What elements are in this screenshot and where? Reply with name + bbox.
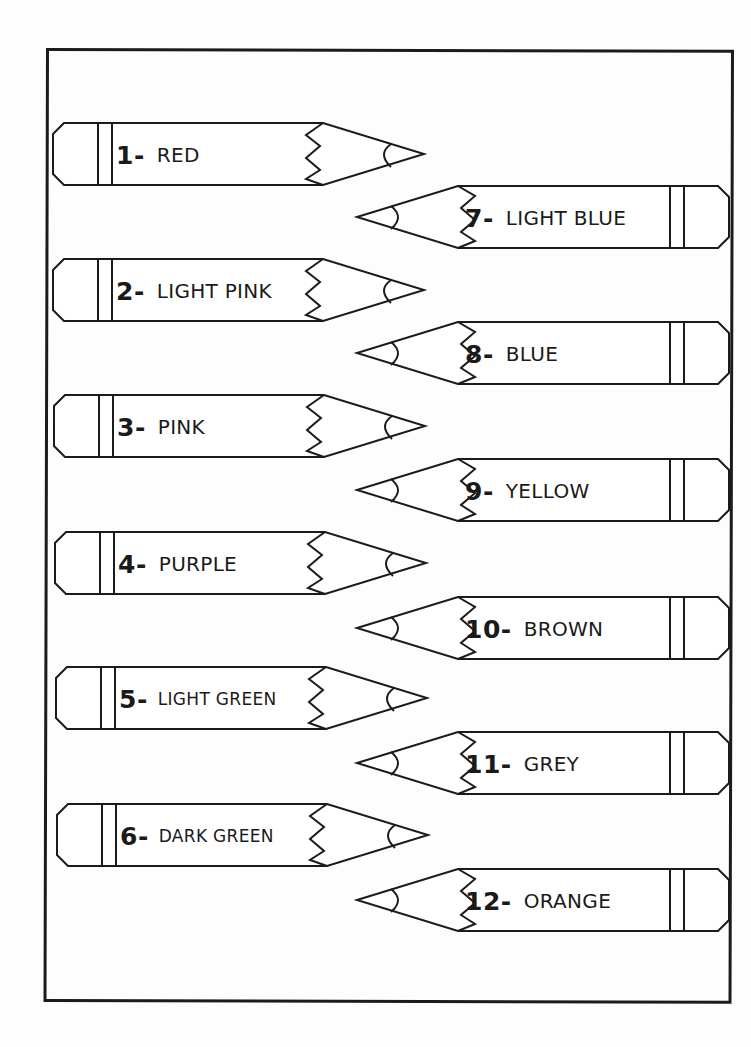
pencil-color-name: RED (157, 143, 200, 167)
pencil-color-name: LIGHT BLUE (506, 206, 626, 230)
pencil-color-name: PURPLE (159, 552, 237, 576)
pencil-color-name: GREY (524, 752, 579, 776)
pencil-color-name: YELLOW (506, 479, 590, 503)
pencil-8[interactable]: 8- BLUE (355, 320, 730, 388)
pencil-9[interactable]: 9- YELLOW (355, 457, 730, 525)
pencil-color-name: DARK GREEN (159, 826, 274, 846)
pencil-12[interactable]: 12- ORANGE (355, 867, 730, 935)
pencil-color-name: BLUE (506, 342, 558, 366)
pencil-number: 9- (465, 477, 494, 506)
pencil-color-name: LIGHT PINK (157, 279, 272, 303)
pencil-outline-icon (52, 121, 427, 189)
pencil-11[interactable]: 11- GREY (355, 730, 730, 798)
pencil-number: 3- (117, 413, 146, 442)
pencil-5[interactable]: 5- LIGHT GREEN (55, 665, 430, 733)
pencil-number: 7- (465, 204, 494, 233)
pencil-color-name: BROWN (524, 617, 604, 641)
pencil-number: 2- (116, 277, 145, 306)
pencil-4[interactable]: 4- PURPLE (54, 530, 429, 598)
pencil-number: 12- (465, 887, 512, 916)
pencil-color-name: LIGHT GREEN (158, 689, 277, 709)
pencil-outline-icon (53, 393, 428, 461)
pencil-number: 8- (465, 340, 494, 369)
pencil-number: 4- (118, 550, 147, 579)
pencil-number: 5- (119, 685, 148, 714)
pencil-outline-icon (54, 530, 429, 598)
pencil-1[interactable]: 1- RED (52, 121, 427, 189)
pencil-color-name: ORANGE (524, 889, 611, 913)
pencil-number: 11- (465, 750, 512, 779)
pencil-number: 10- (465, 615, 512, 644)
pencil-color-name: PINK (158, 415, 205, 439)
pencil-3[interactable]: 3- PINK (53, 393, 428, 461)
pencil-7[interactable]: 7- LIGHT BLUE (355, 184, 730, 252)
pencil-number: 1- (116, 141, 145, 170)
pencil-6[interactable]: 6- DARK GREEN (56, 802, 431, 870)
pencil-2[interactable]: 2- LIGHT PINK (52, 257, 427, 325)
pencil-10[interactable]: 10- BROWN (355, 595, 730, 663)
pencil-number: 6- (120, 822, 149, 851)
